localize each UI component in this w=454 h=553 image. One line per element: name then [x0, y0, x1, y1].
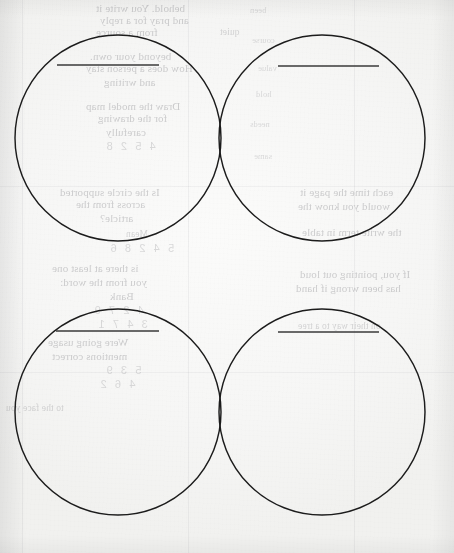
scanned-worksheet-page: behold. You write itand pray for a reply… [0, 0, 454, 553]
venn-bottom-left-circle[interactable] [15, 309, 221, 515]
venn-bottom-right-circle[interactable] [219, 309, 425, 515]
venn-diagram-bottom [15, 309, 425, 515]
venn-top-left-circle[interactable] [15, 35, 221, 241]
